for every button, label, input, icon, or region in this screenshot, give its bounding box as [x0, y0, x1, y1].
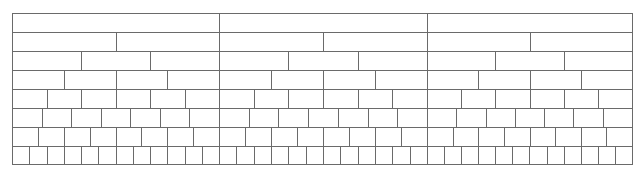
fraction-block [12, 13, 219, 32]
fraction-row-1-12 [219, 146, 427, 165]
fraction-block [308, 108, 338, 127]
fraction-block [427, 51, 495, 70]
fraction-block [427, 108, 456, 127]
fraction-block [12, 32, 116, 51]
fraction-block [323, 146, 340, 165]
fraction-block [71, 108, 101, 127]
fraction-block [410, 146, 427, 165]
fraction-block [358, 89, 393, 108]
fraction-row-1-4 [12, 70, 219, 89]
fraction-block [461, 146, 478, 165]
fraction-block [495, 51, 563, 70]
fraction-block [64, 70, 116, 89]
fraction-block [427, 13, 633, 32]
fraction-block [323, 89, 358, 108]
fraction-block [392, 146, 409, 165]
fraction-block [150, 89, 185, 108]
fraction-block [461, 89, 495, 108]
fraction-row-1-4 [427, 70, 633, 89]
fraction-row-1-6 [219, 89, 427, 108]
fraction-block [306, 146, 323, 165]
fraction-block [504, 127, 530, 146]
fraction-block [167, 127, 193, 146]
fraction-block [167, 70, 219, 89]
fraction-block [64, 127, 90, 146]
fraction-row-1-1 [427, 13, 633, 32]
fraction-block [12, 108, 42, 127]
fraction-block [160, 108, 190, 127]
fraction-block [598, 146, 615, 165]
fraction-block [323, 127, 349, 146]
fraction-block [150, 146, 167, 165]
fraction-block [603, 108, 633, 127]
fraction-block [29, 146, 46, 165]
fraction-block [495, 146, 512, 165]
fraction-row-1-7 [12, 108, 219, 127]
fraction-row-1-8 [427, 127, 633, 146]
fraction-block [288, 146, 305, 165]
fraction-block [555, 127, 581, 146]
fraction-block [375, 127, 401, 146]
wall-1 [12, 13, 219, 166]
fraction-block [375, 70, 427, 89]
fraction-block [297, 127, 323, 146]
fraction-block [530, 32, 634, 51]
fraction-block [12, 70, 64, 89]
fraction-block [271, 70, 323, 89]
fraction-block [512, 146, 529, 165]
fraction-block [101, 108, 131, 127]
fraction-block [478, 70, 529, 89]
fraction-block [349, 127, 375, 146]
fraction-row-1-4 [219, 70, 427, 89]
wall-3 [427, 13, 633, 166]
fraction-row-1-7 [219, 108, 427, 127]
fraction-row-1-7 [427, 108, 633, 127]
fraction-block [12, 51, 81, 70]
fraction-block [185, 89, 220, 108]
fraction-row-1-6 [427, 89, 633, 108]
fraction-block [547, 146, 564, 165]
fraction-block [564, 146, 581, 165]
fraction-block [573, 108, 602, 127]
fraction-block [427, 127, 453, 146]
fraction-block [38, 127, 64, 146]
fraction-row-1-2 [427, 32, 633, 51]
fraction-block [189, 108, 219, 127]
fraction-block [116, 146, 133, 165]
fraction-block [401, 127, 427, 146]
fraction-block [323, 32, 427, 51]
fraction-block [249, 108, 279, 127]
fraction-block [133, 146, 150, 165]
fraction-block [236, 146, 253, 165]
fraction-block [581, 127, 607, 146]
fraction-row-1-3 [219, 51, 427, 70]
fraction-block [202, 146, 219, 165]
fraction-block [581, 70, 633, 89]
fraction-block [167, 146, 184, 165]
fraction-block [130, 108, 160, 127]
fraction-block [47, 89, 82, 108]
fraction-wall-diagram [12, 13, 633, 166]
fraction-block [427, 89, 461, 108]
fraction-block [427, 146, 444, 165]
fraction-block [564, 51, 633, 70]
fraction-block [581, 146, 598, 165]
fraction-row-1-3 [12, 51, 219, 70]
fraction-block [444, 146, 461, 165]
fraction-block [515, 108, 544, 127]
fraction-row-1-8 [219, 127, 427, 146]
fraction-block [368, 108, 398, 127]
fraction-block [254, 89, 289, 108]
fraction-block [219, 32, 323, 51]
fraction-block [90, 127, 116, 146]
fraction-block [495, 89, 529, 108]
fraction-row-1-2 [12, 32, 219, 51]
fraction-block [47, 146, 64, 165]
fraction-block [427, 32, 530, 51]
fraction-block [478, 146, 495, 165]
fraction-row-1-1 [12, 13, 219, 32]
fraction-block [323, 70, 375, 89]
fraction-block [219, 108, 249, 127]
fraction-block [219, 70, 271, 89]
fraction-block [116, 32, 220, 51]
